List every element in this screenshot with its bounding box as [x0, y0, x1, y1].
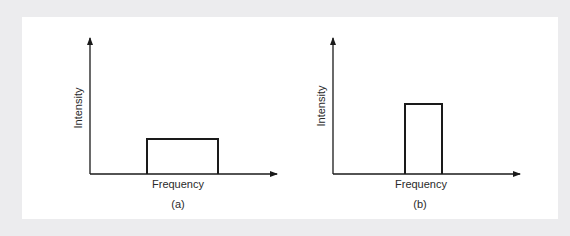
xlabel-a: Frequency — [152, 178, 204, 190]
chart-b: Intensity Frequency (b) — [315, 38, 520, 210]
xlabel-b: Frequency — [395, 178, 447, 190]
ylabel-b: Intensity — [315, 85, 327, 126]
band-a — [147, 139, 218, 174]
band-b — [405, 104, 442, 174]
caption-a: (a) — [171, 198, 184, 210]
figure-svg: Intensity Frequency (a) Intensity Freque… — [0, 0, 570, 236]
ylabel-a: Intensity — [72, 87, 84, 128]
caption-b: (b) — [413, 198, 426, 210]
chart-a: Intensity Frequency (a) — [72, 38, 277, 210]
